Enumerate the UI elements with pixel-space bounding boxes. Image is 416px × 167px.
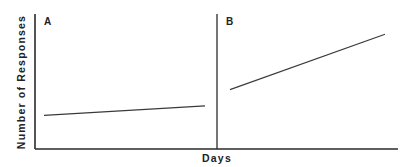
ab-design-chart: A B Days Number of Responses — [0, 0, 416, 167]
series-a-line — [44, 106, 205, 116]
y-axis-label: Number of Responses — [15, 15, 27, 149]
panel-b-label: B — [226, 16, 233, 27]
series-b-line — [230, 34, 385, 89]
x-axis-label: Days — [202, 152, 232, 164]
panel-a-label: A — [44, 16, 51, 27]
